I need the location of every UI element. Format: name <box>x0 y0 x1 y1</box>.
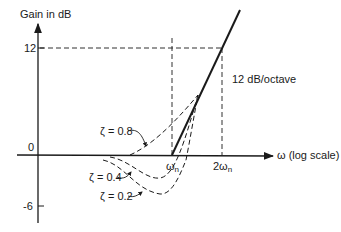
tick-label-12: 12 <box>24 42 36 54</box>
wn-sub: n <box>175 165 179 174</box>
tick-label-0: 0 <box>28 141 34 153</box>
zeta-0.8-label: ζ = 0.8 <box>100 125 133 137</box>
2wn-label: 2ωn <box>213 160 232 174</box>
asymptote-label: 12 dB/octave <box>232 73 296 85</box>
x-axis <box>17 155 273 156</box>
2wn-sub: n <box>228 165 232 174</box>
zeta-0.4-label: ζ = 0.4 <box>89 171 122 183</box>
bode-diagram: Gain in dB 12 0 -6 12 dB/octave ω (log s… <box>0 0 341 232</box>
curve-zeta-0.8 <box>130 95 198 155</box>
asymptote-line <box>172 10 240 155</box>
y-axis-label: Gain in dB <box>20 8 71 20</box>
zeta-0.2-label: ζ = 0.2 <box>100 190 133 202</box>
wn-label: ωn <box>166 160 179 174</box>
tick-label-minus6: -6 <box>23 200 33 212</box>
2wn-base: 2ω <box>213 160 228 172</box>
x-axis-label: ω (log scale) <box>277 149 339 161</box>
